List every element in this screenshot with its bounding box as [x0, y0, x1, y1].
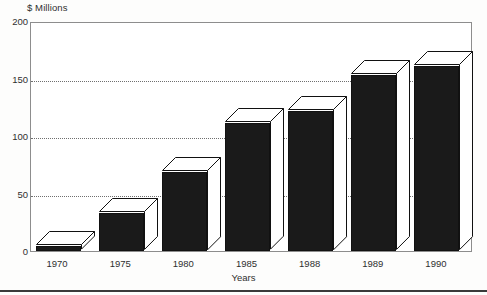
x-axis-tick-label: 1985	[214, 258, 279, 269]
x-axis-tick-label: 1970	[25, 258, 90, 269]
bar-side-face	[334, 96, 347, 249]
y-axis-title: $ Millions	[27, 2, 68, 13]
bar-front-face	[288, 111, 333, 251]
x-axis-tick-labels: 1970197519801985198819891990	[30, 258, 472, 272]
y-axis-tick-label: 150	[2, 75, 28, 85]
x-axis-tick-label: 1980	[151, 258, 216, 269]
bar-chart-figure: $ Millions 050100150200 1970197519801985…	[0, 0, 487, 295]
bar-front-face	[162, 172, 207, 251]
bar-column	[414, 53, 472, 251]
bar-column	[288, 98, 346, 251]
plot-area	[30, 22, 472, 252]
bar-column	[225, 110, 283, 251]
bar-side-face	[460, 51, 473, 249]
y-axis-tick-label: 200	[2, 17, 28, 27]
x-axis-tick-label: 1975	[88, 258, 153, 269]
x-axis-title: Years	[0, 272, 487, 283]
bar-column	[351, 62, 409, 251]
y-axis-tick-label: 100	[2, 132, 28, 142]
x-axis-tick-label: 1990	[403, 258, 468, 269]
bar-front-face	[351, 75, 396, 251]
bar-front-face	[99, 213, 144, 251]
bar-column	[99, 200, 157, 251]
bar-front-face	[414, 66, 459, 251]
bar-front-face	[36, 246, 81, 251]
bar-side-face	[271, 109, 284, 250]
bottom-divider	[0, 290, 487, 292]
x-axis-tick-label: 1988	[277, 258, 342, 269]
y-axis-tick-labels: 050100150200	[0, 22, 28, 252]
bar-front-face	[225, 123, 270, 251]
y-axis-tick-label: 50	[2, 190, 28, 200]
bar-side-face	[397, 61, 410, 250]
bar-column	[162, 159, 220, 251]
x-axis-tick-label: 1989	[340, 258, 405, 269]
bar-side-face	[207, 157, 220, 249]
y-axis-tick-label: 0	[2, 247, 28, 257]
bar-column	[36, 233, 94, 251]
